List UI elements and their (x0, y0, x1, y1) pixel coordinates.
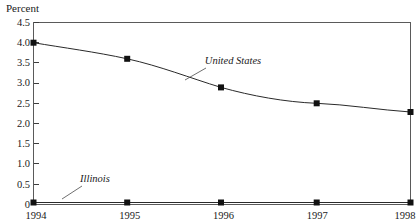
y-tick-label: 2.0 (17, 118, 30, 129)
leader-line-united-states (185, 68, 206, 80)
data-point-marker (31, 200, 37, 206)
y-tick-label: 4.5 (17, 17, 30, 28)
x-axis-ticks: 1994 1995 1996 1997 1998 (26, 210, 416, 221)
data-point-marker (124, 200, 130, 206)
y-tick-label: 1.0 (17, 158, 30, 169)
x-tick-label: 1996 (213, 210, 234, 221)
y-tick-label: 0 (25, 199, 30, 210)
series-line-united-states (34, 43, 411, 112)
y-tick-label: 2.5 (17, 98, 30, 109)
data-point-marker (124, 56, 130, 62)
y-tick-label: 3.5 (17, 57, 30, 68)
data-point-marker (218, 84, 224, 90)
data-point-marker (314, 100, 320, 106)
y-tick-label: 1.5 (17, 138, 30, 149)
x-tick-label: 1995 (119, 210, 140, 221)
leader-line-illinois (62, 186, 82, 199)
x-tick-label: 1998 (395, 210, 416, 221)
y-axis-title: Percent (6, 2, 39, 14)
series-label-united-states: United States (205, 55, 261, 66)
data-point-marker (31, 40, 37, 46)
data-point-marker (218, 200, 224, 206)
y-tick-label: 4.0 (17, 37, 30, 48)
line-chart: Percent 4.5 4.0 3.5 3.0 2.5 2.0 1.5 1.0 … (0, 0, 418, 224)
chart-container: Percent 4.5 4.0 3.5 3.0 2.5 2.0 1.5 1.0 … (0, 0, 418, 224)
data-point-marker (408, 200, 414, 206)
y-tick-label: 3.0 (17, 77, 30, 88)
x-tick-label: 1994 (26, 210, 48, 221)
series-label-illinois: Illinois (79, 173, 110, 184)
y-tick-label: 0.5 (17, 179, 30, 190)
x-tick-label: 1997 (307, 210, 328, 221)
data-point-marker (408, 109, 414, 115)
data-point-marker (314, 200, 320, 206)
y-axis-ticks: 4.5 4.0 3.5 3.0 2.5 2.0 1.5 1.0 0.5 0 (17, 17, 39, 210)
